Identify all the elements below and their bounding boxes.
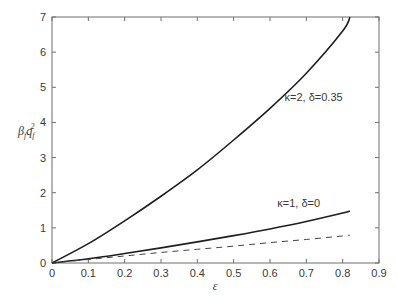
x-tick-label: 0.4: [190, 267, 205, 279]
plot-frame: [52, 17, 379, 263]
x-tick-label: 0: [49, 267, 55, 279]
y-axis-label: βfqf2: [17, 122, 36, 140]
x-tick-label: 0.8: [335, 267, 350, 279]
annotation-1: κ=1, δ=0: [277, 197, 320, 209]
y-tick-label: 6: [40, 46, 46, 58]
annotation-0: κ=2, δ=0.35: [285, 91, 343, 103]
x-tick-label: 0.2: [117, 267, 132, 279]
line-chart: 00.10.20.30.40.50.60.70.80.9 01234567 κ=…: [0, 0, 397, 301]
x-tick-label: 0.1: [81, 267, 96, 279]
y-tick-label: 2: [40, 187, 46, 199]
y-tick-label: 1: [40, 222, 46, 234]
axes-frame: [52, 17, 379, 263]
y-tick-label: 7: [40, 11, 46, 23]
chart: 00.10.20.30.40.50.60.70.80.9 01234567 κ=…: [0, 0, 397, 301]
data-series: [52, 17, 350, 263]
x-tick-label: 0.5: [226, 267, 241, 279]
y-label-beta: β: [17, 124, 24, 138]
x-axis-label: ε: [213, 279, 218, 293]
x-axis-ticks: 00.10.20.30.40.50.60.70.80.9: [49, 17, 387, 279]
y-tick-label: 5: [40, 81, 46, 93]
y-tick-label: 0: [40, 257, 46, 269]
y-label-sub2: f: [32, 131, 36, 140]
x-tick-label: 0.7: [299, 267, 314, 279]
series-line-1: [52, 211, 350, 263]
y-label-sup: 2: [30, 122, 34, 131]
y-tick-label: 3: [40, 152, 46, 164]
series-line-0: [52, 17, 350, 263]
x-tick-label: 0.6: [262, 267, 277, 279]
curve-annotations: κ=2, δ=0.35κ=1, δ=0: [277, 91, 342, 208]
x-tick-label: 0.9: [371, 267, 386, 279]
x-tick-label: 0.3: [153, 267, 168, 279]
y-tick-label: 4: [40, 116, 46, 128]
